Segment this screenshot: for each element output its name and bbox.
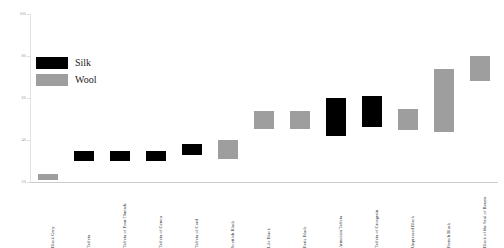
y-axis-tick-label: 20 bbox=[0, 180, 26, 184]
x-axis-tick-label: Taffeta of Grosgrain bbox=[374, 186, 380, 248]
x-axis-tick-label: Scottish Black bbox=[230, 186, 236, 248]
x-axis-line bbox=[30, 182, 498, 183]
chart-container: 20406080100 Black GreyTaffetaTaffeta of … bbox=[0, 0, 504, 248]
x-axis-tick-label: French Black bbox=[446, 186, 452, 248]
x-axis-tick-label: Black of the Seal of Rouen bbox=[482, 186, 488, 248]
y-axis-tick-label: 60 bbox=[0, 96, 26, 100]
bar-lile-black bbox=[254, 111, 274, 130]
x-axis-tick-label: Lile Black bbox=[266, 186, 272, 248]
x-axis-tick-label: Paris Black bbox=[302, 186, 308, 248]
bar-taffeta-of-cord bbox=[182, 144, 202, 155]
x-axis-tick-label: Taffeta of Four Threads bbox=[122, 186, 128, 248]
x-axis-tick-label: Black Grey bbox=[50, 186, 56, 248]
bar-unpressed-black bbox=[398, 109, 418, 130]
bar-taffeta-of-four-threads bbox=[110, 151, 130, 162]
legend-item-label: Silk bbox=[75, 57, 91, 68]
bar-french-black bbox=[434, 69, 454, 132]
bar-taffeta bbox=[74, 151, 94, 162]
bar-black-of-the-seal-of-rouen bbox=[470, 56, 490, 81]
legend-item-silk[interactable]: Silk bbox=[36, 56, 132, 69]
bar-armoisin-taffeta bbox=[326, 98, 346, 136]
x-axis-tick-label: Taffeta of Genoa bbox=[158, 186, 164, 248]
x-axis-tick-label: Taffeta of Cord bbox=[194, 186, 200, 248]
y-axis-tick-label: 40 bbox=[0, 138, 26, 142]
legend-item-label: Wool bbox=[75, 74, 96, 85]
bar-black-grey bbox=[38, 174, 58, 180]
plot-area bbox=[30, 14, 498, 182]
bar-paris-black bbox=[290, 111, 310, 130]
y-axis-tick-mark bbox=[27, 182, 30, 183]
y-axis-tick-label: 100 bbox=[0, 12, 26, 16]
bar-taffeta-of-grosgrain bbox=[362, 96, 382, 128]
chart-legend: SilkWool bbox=[36, 56, 132, 90]
legend-swatch-icon bbox=[36, 74, 68, 86]
y-axis-tick-label: 80 bbox=[0, 54, 26, 58]
legend-item-wool[interactable]: Wool bbox=[36, 73, 132, 86]
legend-swatch-icon bbox=[36, 57, 68, 69]
bar-taffeta-of-genoa bbox=[146, 151, 166, 162]
bar-scottish-black bbox=[218, 140, 238, 159]
x-axis-tick-label: Taffeta bbox=[86, 186, 92, 248]
x-axis-tick-label: Unpressed Black bbox=[410, 186, 416, 248]
x-axis-tick-label: Armoisin Taffeta bbox=[338, 186, 344, 248]
